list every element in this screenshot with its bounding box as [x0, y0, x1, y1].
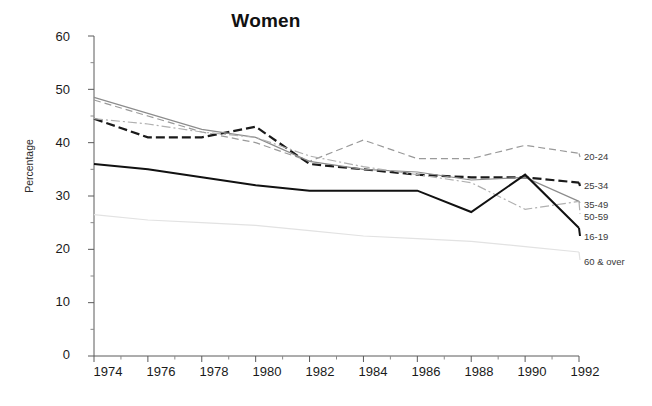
series-line-50-59: [94, 119, 579, 210]
legend-leader-60-over: [579, 252, 580, 260]
legend-leader-25-34: [579, 183, 580, 186]
plot-area: [0, 0, 652, 406]
legend-leader-50-59: [579, 201, 580, 214]
series-line-20-24: [94, 100, 579, 161]
legend-leader-16-19: [579, 228, 580, 236]
chart-container: Women Percentage 60 50 40 30 20 10 0 197…: [0, 0, 652, 406]
legend-leader-20-24: [579, 153, 580, 157]
series-line-35-49: [94, 97, 579, 201]
series-line-16-19: [94, 164, 579, 228]
series-line-60-over: [94, 215, 579, 252]
legend-leader-lines: [579, 153, 580, 260]
series-layer: [94, 97, 579, 252]
